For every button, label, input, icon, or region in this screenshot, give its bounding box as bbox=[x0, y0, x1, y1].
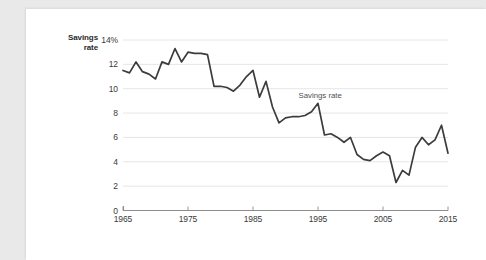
savings-rate-line bbox=[123, 49, 448, 183]
x-axis-ticks bbox=[123, 207, 448, 211]
x-tick-label: 1995 bbox=[298, 214, 338, 224]
y-tick-label: 6 bbox=[96, 132, 118, 142]
gridlines bbox=[123, 40, 448, 186]
y-tick-label: 2 bbox=[96, 181, 118, 191]
y-tick-label: 12 bbox=[96, 59, 118, 69]
x-tick-label: 1965 bbox=[103, 214, 143, 224]
x-tick-label: 1985 bbox=[233, 214, 273, 224]
page-root: Savings rate 14%121086420 19651975198519… bbox=[0, 0, 486, 260]
x-tick-label: 2015 bbox=[428, 214, 468, 224]
x-tick-label: 1975 bbox=[168, 214, 208, 224]
series-annotation: Savings rate bbox=[299, 91, 342, 100]
y-tick-label: 10 bbox=[96, 84, 118, 94]
y-axis-title-line1: Savings bbox=[46, 33, 98, 43]
y-axis-title: Savings rate bbox=[46, 33, 98, 53]
y-tick-label: 8 bbox=[96, 108, 118, 118]
y-axis-title-line2: rate bbox=[46, 43, 98, 53]
x-tick-label: 2005 bbox=[363, 214, 403, 224]
y-tick-label: 14% bbox=[92, 35, 118, 45]
y-tick-label: 4 bbox=[96, 157, 118, 167]
